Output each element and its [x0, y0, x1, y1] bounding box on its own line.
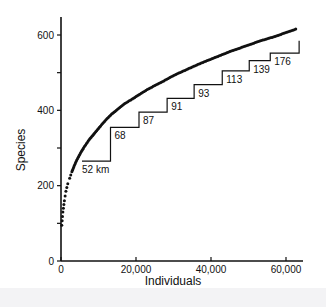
curve-point [61, 215, 64, 218]
y-tick-label: 600 [37, 30, 54, 41]
curve-point [69, 173, 72, 176]
curve-point [68, 177, 71, 180]
area-steps: 52 km68879193113139176 [82, 41, 299, 176]
x-axis-label: Individuals [145, 274, 202, 288]
y-axis-label: Species [14, 129, 28, 172]
step-line [82, 41, 299, 162]
step-label: 87 [143, 115, 155, 126]
y-tick-label: 0 [48, 256, 54, 267]
step-label: 68 [115, 130, 127, 141]
curve-point [63, 199, 66, 202]
curve-point [64, 195, 67, 198]
step-label: 113 [226, 74, 242, 85]
curve-point [62, 207, 65, 210]
curve-point [61, 219, 64, 222]
step-label: 91 [171, 101, 183, 112]
y-tick-label: 400 [37, 105, 54, 116]
axes: 0200400600020,00040,00060,000 [37, 17, 303, 275]
species-accumulation-chart: 0200400600020,00040,00060,000 52 km68879… [0, 0, 326, 307]
species-curve [60, 28, 297, 227]
step-label: 139 [253, 64, 270, 75]
x-tick-label: 60,000 [271, 264, 302, 275]
step-label: 176 [274, 56, 291, 67]
curve-point [65, 186, 68, 189]
curve-point [294, 28, 297, 31]
step-label: 52 km [82, 164, 109, 175]
y-tick-label: 200 [37, 180, 54, 191]
curve-point [62, 203, 65, 206]
step-label: 93 [198, 88, 210, 99]
x-tick-label: 0 [58, 264, 64, 275]
curve-point [60, 224, 63, 227]
curve-point [66, 182, 69, 185]
curve-point [64, 190, 67, 193]
curve-point [61, 211, 64, 214]
